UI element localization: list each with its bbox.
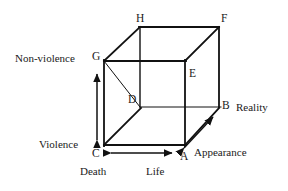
axis-label-violence: Violence: [39, 139, 78, 150]
vertex-label-D: D: [128, 94, 136, 106]
edge-E-F: [185, 27, 219, 61]
diagram-canvas: A B C D E F G H Non-violence Violence Re…: [0, 0, 288, 191]
vertex-label-B: B: [222, 100, 230, 112]
vertex-label-A: A: [180, 151, 188, 163]
vertex-label-C: C: [92, 148, 100, 160]
axis-arrows: [97, 74, 213, 153]
axis-label-appearance: Appearance: [194, 147, 247, 158]
axis-label-life: Life: [146, 166, 164, 177]
axis-label-death: Death: [80, 166, 106, 177]
vertex-label-E: E: [189, 68, 196, 80]
depth-axis-arrow: [184, 117, 213, 148]
vertex-label-G: G: [92, 51, 100, 63]
cube-figure: [0, 0, 288, 191]
edge-A-B: [185, 108, 219, 145]
vertex-label-F: F: [221, 13, 227, 25]
axis-label-non-violence: Non-violence: [15, 53, 75, 64]
vertex-label-H: H: [136, 13, 144, 25]
axis-label-reality: Reality: [236, 102, 268, 113]
edge-C-D: [104, 108, 141, 145]
edge-G-H: [104, 27, 140, 61]
